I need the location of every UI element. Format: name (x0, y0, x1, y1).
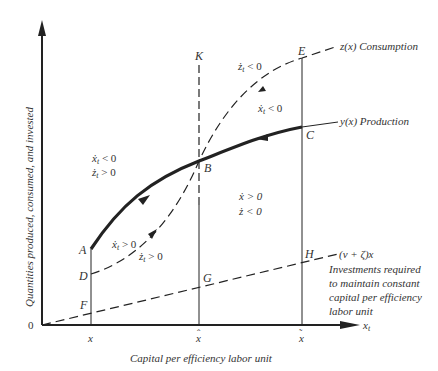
point-label-e: E (297, 44, 306, 58)
x-axis-arrow-icon (340, 321, 360, 329)
phase-diagram: A B C D E F G H K z(x) Consumption y(x) … (0, 0, 438, 371)
production-curve-thick (91, 127, 302, 249)
region-lower-left-z: żt > 0 (138, 250, 163, 264)
point-label-c: C (306, 128, 315, 142)
region-middle-right-x: ẋ > 0 (238, 190, 263, 202)
production-curve-label: y(x) Production (339, 115, 409, 128)
investment-note-line-3: capital per efficiency (329, 291, 422, 303)
x-axis-symbol: xt (362, 319, 371, 333)
point-label-f: F (79, 298, 88, 312)
point-label-b: B (204, 161, 212, 175)
y-axis-title: Quantities produced, consumed, and inves… (23, 107, 35, 307)
x-tick-x: x (87, 332, 93, 344)
point-label-g: G (203, 271, 212, 285)
investment-line (42, 254, 338, 325)
origin-label: 0 (28, 319, 34, 331)
investment-note-line-2: to maintain constant (329, 277, 420, 289)
region-lower-left-x: ẋt > 0 (111, 238, 137, 252)
consumption-curve-label: z(x) Consumption (339, 40, 418, 53)
region-upper-left-z: żt > 0 (91, 166, 116, 180)
point-label-k: K (194, 49, 204, 63)
investment-curve-label: (ν + ζ)x (339, 248, 374, 261)
investment-note-line-4: labor unit (329, 305, 374, 317)
region-middle-right-z: ż < 0 (238, 205, 262, 217)
region-upper-right-z: żt < 0 (237, 60, 262, 74)
arrow-icon-production-up (138, 195, 150, 205)
region-upper-right-x: ẋt < 0 (257, 102, 283, 116)
point-label-a: A (78, 243, 87, 257)
production-curve-thin (302, 122, 338, 127)
arrow-icon-consumption-up (148, 229, 157, 239)
point-label-h: H (304, 247, 315, 261)
y-axis-arrow-icon (38, 20, 46, 36)
arrow-icon-consumption-down (258, 86, 266, 92)
region-upper-left-x: ẋt < 0 (91, 152, 117, 166)
x-axis-title: Capital per efficiency labor unit (130, 352, 273, 364)
investment-note-line-1: Investments required (328, 263, 421, 275)
point-label-d: D (78, 269, 88, 283)
